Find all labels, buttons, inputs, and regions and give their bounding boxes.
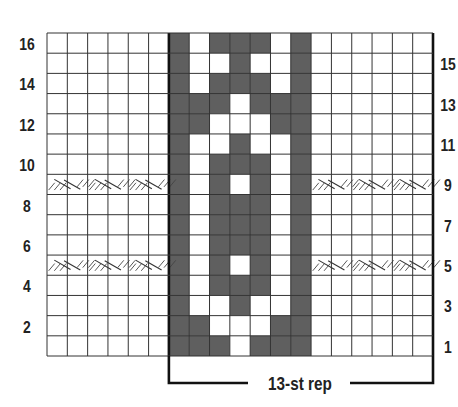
main-cell bbox=[47, 215, 67, 235]
main-cell bbox=[372, 53, 392, 73]
main-cell bbox=[108, 94, 128, 114]
main-cell bbox=[108, 235, 128, 255]
main-cell bbox=[392, 215, 412, 235]
contrast-cell bbox=[230, 195, 250, 215]
main-cell bbox=[230, 174, 250, 194]
contrast-cell bbox=[169, 215, 189, 235]
main-cell bbox=[331, 134, 351, 154]
contrast-cell bbox=[250, 94, 270, 114]
main-cell bbox=[149, 73, 169, 93]
main-cell bbox=[270, 235, 290, 255]
main-cell bbox=[88, 53, 108, 73]
contrast-cell bbox=[250, 195, 270, 215]
main-cell bbox=[413, 295, 433, 315]
main-cell bbox=[47, 195, 67, 215]
main-cell bbox=[108, 154, 128, 174]
main-cell bbox=[413, 336, 433, 356]
main-cell bbox=[67, 316, 87, 336]
contrast-cell bbox=[210, 215, 230, 235]
main-cell bbox=[128, 33, 148, 53]
main-cell bbox=[149, 94, 169, 114]
main-cell bbox=[311, 114, 331, 134]
main-cell bbox=[352, 33, 372, 53]
main-cell bbox=[392, 195, 412, 215]
main-cell bbox=[108, 134, 128, 154]
main-cell bbox=[311, 295, 331, 315]
row-label-8: 8 bbox=[15, 197, 40, 217]
contrast-cell bbox=[169, 195, 189, 215]
contrast-cell bbox=[291, 275, 311, 295]
contrast-cell bbox=[210, 174, 230, 194]
main-cell bbox=[67, 114, 87, 134]
main-cell bbox=[88, 336, 108, 356]
main-cell bbox=[413, 316, 433, 336]
contrast-cell bbox=[270, 316, 290, 336]
main-cell bbox=[47, 114, 67, 134]
bracket-right bbox=[350, 356, 433, 383]
contrast-cell bbox=[291, 33, 311, 53]
main-cell bbox=[108, 295, 128, 315]
contrast-cell bbox=[230, 53, 250, 73]
contrast-cell bbox=[291, 295, 311, 315]
main-cell bbox=[352, 94, 372, 114]
main-cell bbox=[108, 114, 128, 134]
main-cell bbox=[250, 53, 270, 73]
main-cell bbox=[67, 336, 87, 356]
main-cell bbox=[311, 215, 331, 235]
contrast-cell bbox=[291, 215, 311, 235]
row-label-14: 14 bbox=[15, 75, 40, 95]
contrast-cell bbox=[230, 275, 250, 295]
main-cell bbox=[47, 316, 67, 336]
main-cell bbox=[270, 134, 290, 154]
main-cell bbox=[392, 94, 412, 114]
row-label-10: 10 bbox=[15, 156, 40, 176]
main-cell bbox=[47, 94, 67, 114]
contrast-cell bbox=[291, 336, 311, 356]
main-cell bbox=[372, 295, 392, 315]
main-cell bbox=[67, 73, 87, 93]
main-cell bbox=[128, 275, 148, 295]
contrast-cell bbox=[169, 53, 189, 73]
main-cell bbox=[331, 215, 351, 235]
main-cell bbox=[149, 33, 169, 53]
main-cell bbox=[372, 316, 392, 336]
main-cell bbox=[372, 336, 392, 356]
row-label-2: 2 bbox=[15, 318, 40, 338]
main-cell bbox=[128, 195, 148, 215]
main-cell bbox=[108, 275, 128, 295]
main-cell bbox=[392, 154, 412, 174]
row-label-13: 13 bbox=[438, 96, 458, 116]
main-cell bbox=[270, 73, 290, 93]
main-cell bbox=[372, 235, 392, 255]
main-cell bbox=[392, 33, 412, 53]
main-cell bbox=[47, 275, 67, 295]
main-cell bbox=[189, 215, 209, 235]
main-cell bbox=[149, 275, 169, 295]
main-cell bbox=[149, 154, 169, 174]
main-cell bbox=[372, 94, 392, 114]
contrast-cell bbox=[169, 275, 189, 295]
main-cell bbox=[311, 316, 331, 336]
main-cell bbox=[88, 275, 108, 295]
main-cell bbox=[88, 154, 108, 174]
main-cell bbox=[189, 255, 209, 275]
main-cell bbox=[128, 215, 148, 235]
main-cell bbox=[149, 134, 169, 154]
main-cell bbox=[352, 195, 372, 215]
main-cell bbox=[270, 255, 290, 275]
main-cell bbox=[331, 336, 351, 356]
row-label-1: 1 bbox=[438, 338, 458, 358]
row-label-12: 12 bbox=[15, 116, 40, 136]
main-cell bbox=[128, 154, 148, 174]
main-cell bbox=[189, 154, 209, 174]
row-label-7: 7 bbox=[438, 217, 458, 237]
main-cell bbox=[352, 134, 372, 154]
main-cell bbox=[270, 174, 290, 194]
contrast-cell bbox=[250, 215, 270, 235]
main-cell bbox=[372, 134, 392, 154]
main-cell bbox=[230, 336, 250, 356]
contrast-cell bbox=[291, 134, 311, 154]
contrast-cell bbox=[189, 316, 209, 336]
row-label-9: 9 bbox=[438, 176, 458, 196]
repeat-label: 13-st rep bbox=[258, 373, 343, 395]
